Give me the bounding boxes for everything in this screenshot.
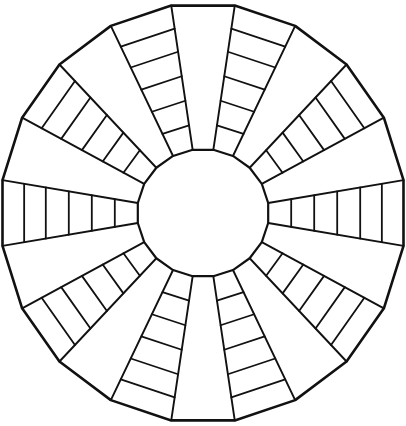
- ladder-rung: [121, 379, 175, 397]
- ladder-rung: [141, 336, 181, 349]
- ladder-rung: [266, 253, 282, 275]
- ladder-rung: [224, 76, 264, 89]
- ladder-rung: [82, 115, 107, 150]
- ladder-rung: [299, 276, 324, 311]
- inner-hub: [138, 150, 268, 276]
- ladder-rung: [217, 125, 244, 134]
- sector-spoke: [2, 223, 137, 246]
- ladder-rung: [299, 115, 324, 150]
- ladder-rung: [103, 133, 124, 162]
- sector-spoke: [2, 180, 137, 203]
- ladder-rung: [266, 150, 282, 172]
- sector-spoke: [262, 118, 384, 184]
- sector-spoke: [22, 242, 144, 308]
- ladder-rung: [162, 292, 189, 301]
- sector-spoke: [59, 65, 156, 168]
- ladder-rung: [331, 298, 364, 345]
- ladder-rung: [123, 150, 139, 172]
- ladder-rung: [316, 98, 345, 139]
- ladder-rung: [121, 29, 175, 47]
- ladder-rung: [42, 298, 75, 345]
- ladder-rung: [61, 98, 90, 139]
- ladder-rung: [283, 265, 304, 294]
- ladder-sector: [24, 184, 115, 242]
- ladder-rung: [231, 379, 285, 397]
- sector-spoke: [59, 258, 156, 361]
- sector-spokes: [2, 6, 403, 421]
- ladder-sector: [266, 253, 364, 345]
- ladder-rung: [221, 101, 254, 112]
- ladder-wheel-diagram: [0, 0, 406, 426]
- ladder-rung: [224, 336, 264, 349]
- ladder-rung: [61, 287, 90, 328]
- wheel-svg: [0, 0, 406, 426]
- ladder-rung: [152, 101, 185, 112]
- ladder-rung: [221, 314, 254, 325]
- ladder-rung: [123, 253, 139, 275]
- ladder-sector: [266, 81, 364, 173]
- ladder-rung: [283, 133, 304, 162]
- ladder-rung: [152, 314, 185, 325]
- ladder-rung: [228, 52, 275, 68]
- ladder-rung: [231, 29, 285, 47]
- ladder-sector: [291, 184, 382, 242]
- ladder-sector: [42, 81, 140, 173]
- ladder-rung: [331, 81, 364, 128]
- ladder-rung: [131, 358, 178, 374]
- ladder-rung: [131, 52, 178, 68]
- sector-spoke: [250, 65, 347, 168]
- sector-spoke: [268, 223, 403, 246]
- sector-spoke: [262, 242, 384, 308]
- ladder-rung: [162, 125, 189, 134]
- ladder-rung: [103, 265, 124, 294]
- ladder-rung: [42, 81, 75, 128]
- sector-spoke: [268, 180, 403, 203]
- ladder-rung: [82, 276, 107, 311]
- ladder-sector: [42, 253, 140, 345]
- ladder-rung: [141, 76, 181, 89]
- sector-spoke: [250, 258, 347, 361]
- ladder-rung: [217, 292, 244, 301]
- ladder-rung: [316, 287, 345, 328]
- sector-spoke: [22, 118, 144, 184]
- ladder-rung: [228, 358, 275, 374]
